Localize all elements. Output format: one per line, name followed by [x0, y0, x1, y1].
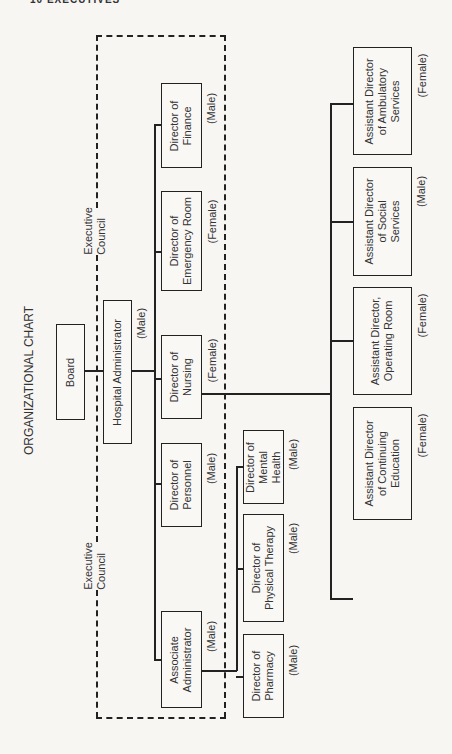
executive-council-label-top: Executive Council — [80, 205, 110, 257]
gender-asst-director-ambulatory: (Female) — [413, 47, 431, 103]
gender-asst-director-social: (Male) — [413, 167, 431, 215]
node-director-personnel: Director of Personnel — [161, 443, 202, 527]
chart-title-text: ORGANIZATIONAL CHART — [24, 305, 37, 454]
gender-director-emergency-room: (Female) — [203, 191, 221, 251]
gender-director-mental-health: (Male) — [285, 430, 303, 478]
gender-hospital-administrator: (Male) — [133, 300, 151, 346]
gender-director-finance: (Male) — [203, 83, 221, 133]
gender-asst-director-or: (Female) — [413, 287, 431, 343]
node-director-finance: Director of Finance — [161, 83, 202, 168]
node-director-mental-health: Director of Mental Health — [243, 430, 284, 504]
gender-asst-director-continuing-ed: (Female) — [413, 407, 431, 463]
gender-director-pharmacy: (Male) — [285, 634, 303, 686]
page-header-fragment: 10 EXECUTIVES — [30, 0, 120, 5]
node-associate-administrator: Associate Administrator — [161, 611, 202, 708]
node-hospital-administrator: Hospital Administrator — [103, 300, 132, 444]
node-asst-director-ambulatory: Assistant Director of Ambulatory Service… — [353, 47, 412, 155]
node-asst-director-social: Assistant Director of Social Services — [353, 167, 412, 276]
gender-director-nursing: (Female) — [203, 335, 221, 385]
node-director-physical-therapy: Director of Physical Therapy — [243, 514, 284, 622]
gender-associate-administrator: (Male) — [203, 611, 221, 661]
chart-title: ORGANIZATIONAL CHART — [18, 300, 42, 460]
node-board: Board — [56, 324, 85, 420]
node-director-nursing: Director of Nursing — [161, 335, 202, 419]
gender-director-physical-therapy: (Male) — [285, 514, 303, 562]
node-asst-director-continuing-ed: Assistant Director of Continuing Educati… — [353, 407, 412, 520]
node-director-emergency-room: Director of Emergency Room — [161, 191, 202, 291]
node-asst-director-or: Assistant Director, Operating Room — [353, 287, 412, 395]
gender-director-personnel: (Male) — [203, 443, 221, 493]
node-director-pharmacy: Director of Pharmacy — [243, 634, 284, 718]
executive-council-label-bottom: Executive Council — [80, 540, 110, 592]
